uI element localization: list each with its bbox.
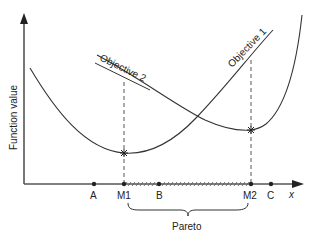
m2-minimum-star-icon bbox=[247, 126, 255, 134]
x-axis-label: x bbox=[288, 189, 295, 200]
point-c-label: C bbox=[267, 190, 274, 201]
pareto-diagram: Function value x Objective 2 Objective 1… bbox=[0, 0, 315, 239]
y-axis-arrow-icon bbox=[20, 13, 28, 24]
pareto-label: Pareto bbox=[172, 221, 202, 232]
x-axis-arrow-icon bbox=[292, 180, 304, 188]
point-m2-label: M2 bbox=[243, 190, 257, 201]
m1-minimum-star-icon bbox=[120, 149, 128, 157]
point-m2-dot-icon bbox=[249, 182, 253, 186]
point-c-dot-icon bbox=[269, 182, 273, 186]
y-axis bbox=[20, 13, 28, 184]
point-m1-label: M1 bbox=[117, 190, 131, 201]
point-m1-dot-icon bbox=[122, 182, 126, 186]
point-b-dot-icon bbox=[157, 182, 161, 186]
point-a-dot-icon bbox=[92, 182, 96, 186]
y-axis-label: Function value bbox=[8, 85, 19, 150]
objective-1-label: Objective 1 bbox=[226, 25, 269, 69]
pareto-brace bbox=[128, 203, 248, 216]
point-b-label: B bbox=[156, 190, 163, 201]
point-a-label: A bbox=[90, 190, 97, 201]
objective-1-curve bbox=[30, 30, 273, 153]
